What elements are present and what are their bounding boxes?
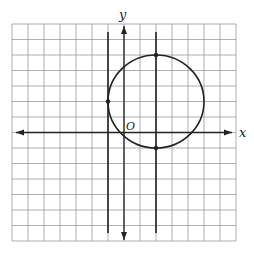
x-axis-right-arrow-icon	[224, 130, 232, 136]
x-axis-label: x	[239, 125, 247, 140]
point-marker	[154, 146, 158, 150]
origin-label: O	[126, 120, 135, 133]
y-axis-up-arrow-icon	[121, 26, 127, 34]
x-axis-left-arrow-icon	[16, 130, 24, 136]
y-axis-down-arrow-icon	[121, 232, 127, 240]
axes	[16, 26, 232, 240]
coordinate-plane: x y O	[0, 0, 254, 256]
coordinate-plane-figure: x y O	[0, 0, 254, 256]
point-marker	[106, 99, 110, 103]
y-axis-label: y	[118, 7, 127, 22]
point-marker	[154, 53, 158, 57]
